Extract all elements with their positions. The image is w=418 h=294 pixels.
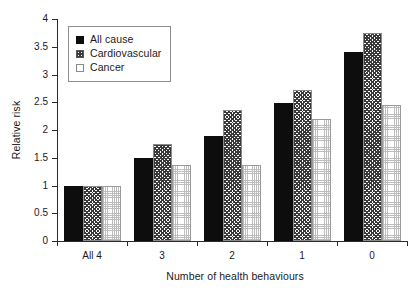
- y-tick-label: 2: [42, 122, 48, 138]
- bar: [223, 110, 242, 241]
- x-tick-label: 0: [337, 250, 407, 261]
- bar: [204, 136, 223, 241]
- legend-item: Cardiovascular: [76, 47, 161, 60]
- bar: [293, 90, 312, 241]
- y-tick: 3.5: [52, 47, 57, 48]
- bar: [274, 103, 293, 241]
- y-tick-label: 2.5: [34, 94, 48, 110]
- bar: [312, 119, 331, 241]
- bar: [134, 158, 153, 241]
- y-tick-label: 0: [42, 233, 48, 249]
- y-axis-label: Relative risk: [8, 19, 24, 241]
- y-tick: 2.5: [52, 102, 57, 103]
- legend-swatch-icon: [76, 36, 84, 44]
- y-tick-label: 3.5: [34, 39, 48, 55]
- x-tick: [127, 241, 128, 246]
- y-tick: 1: [52, 186, 57, 187]
- x-tick-label: All 4: [57, 250, 127, 261]
- x-axis-line: [57, 241, 407, 242]
- y-tick: 3: [52, 75, 57, 76]
- x-tick: [407, 241, 408, 246]
- legend-swatch-icon: [76, 50, 84, 58]
- bar: [83, 186, 102, 242]
- x-tick: [57, 241, 58, 246]
- x-tick: [197, 241, 198, 246]
- y-tick-label: 1: [42, 178, 48, 194]
- bar: [64, 186, 83, 242]
- y-tick-label: 0.5: [34, 205, 48, 221]
- bar: [344, 52, 363, 241]
- bar: [382, 105, 401, 241]
- legend-item-label: All cause: [90, 33, 134, 46]
- x-tick-label: 2: [197, 250, 267, 261]
- bar: [102, 186, 121, 242]
- x-axis-label: Number of health behaviours: [70, 270, 400, 282]
- bar: [172, 165, 191, 241]
- x-tick: [267, 241, 268, 246]
- y-tick: 2: [52, 130, 57, 131]
- legend-item: All cause: [76, 33, 161, 46]
- chart-legend: All causeCardiovascularCancer: [68, 26, 171, 82]
- y-tick: 4: [52, 19, 57, 20]
- x-tick-label: 3: [127, 250, 197, 261]
- legend-swatch-icon: [76, 64, 84, 72]
- y-tick: 1.5: [52, 158, 57, 159]
- y-tick-label: 4: [42, 11, 48, 27]
- y-tick-label: 3: [42, 67, 48, 83]
- x-tick: [337, 241, 338, 246]
- bar: [153, 144, 172, 241]
- bar-chart-figure: Relative risk Number of health behaviour…: [0, 0, 418, 294]
- legend-item: Cancer: [76, 61, 161, 74]
- bar: [363, 33, 382, 241]
- y-tick-label: 1.5: [34, 150, 48, 166]
- bar: [242, 165, 261, 241]
- legend-item-label: Cancer: [90, 61, 124, 74]
- y-axis-line: [57, 19, 58, 242]
- x-tick-label: 1: [267, 250, 337, 261]
- y-tick: 0.5: [52, 213, 57, 214]
- legend-item-label: Cardiovascular: [90, 47, 161, 60]
